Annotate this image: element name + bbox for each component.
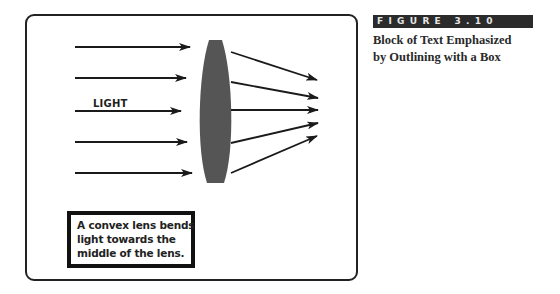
arrow-icon (231, 82, 318, 98)
convex-lens-icon (200, 40, 232, 183)
figure-number-label: FIGURE 3.10 (373, 15, 533, 28)
figure-title: Block of Text Emphasized by Outlining wi… (373, 32, 553, 66)
arrow-icon (231, 52, 317, 80)
caption-line: middle of the lens. (77, 246, 191, 260)
figure-title-line: Block of Text Emphasized (373, 32, 553, 49)
arrow-icon (231, 123, 318, 143)
light-label: LIGHT (93, 98, 128, 109)
refracted-light-rays (231, 52, 318, 173)
caption-line: light towards the (77, 232, 191, 246)
arrow-icon (231, 136, 317, 173)
lens-caption-box: A convex lens bends light towards the mi… (67, 211, 195, 268)
incoming-light-rays (75, 47, 192, 173)
figure-title-line: by Outlining with a Box (373, 49, 553, 66)
caption-line: A convex lens bends (77, 218, 191, 232)
